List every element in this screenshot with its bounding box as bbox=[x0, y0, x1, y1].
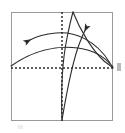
right-edge-tick bbox=[117, 63, 121, 71]
bottom-to-top-curve bbox=[62, 12, 73, 120]
phase-portrait-figure bbox=[0, 0, 125, 133]
below-frame-mark bbox=[18, 125, 23, 129]
figure-container bbox=[0, 0, 125, 133]
upper-left-arrow-curve bbox=[30, 33, 110, 63]
top-right-descending-curve bbox=[73, 12, 113, 68]
